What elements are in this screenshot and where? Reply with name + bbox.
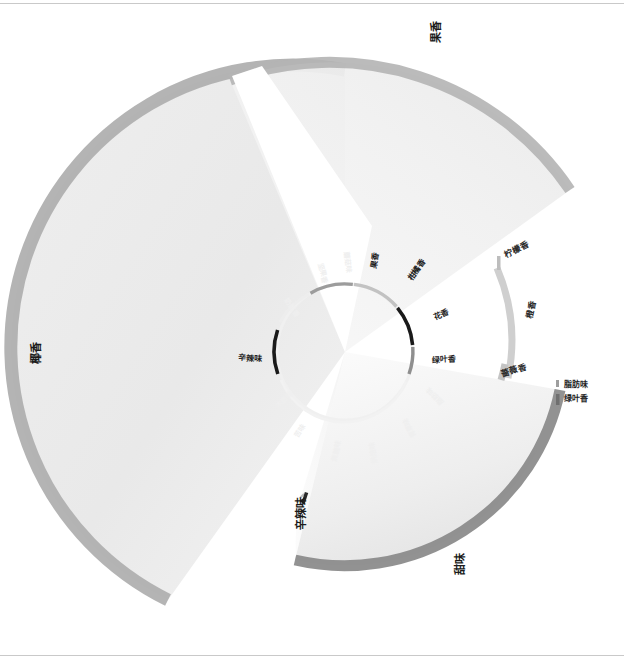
outer-segment-cheng-xiang — [497, 268, 512, 378]
frame-top-divider — [0, 3, 624, 4]
outer-segment-qiang-wei-xiang — [501, 364, 505, 380]
inner-arc-hua-xiang — [398, 308, 413, 345]
chart-canvas — [0, 0, 624, 667]
outer-segment-ning-meng-xiang — [497, 256, 501, 270]
legend-tick-lv-ye-xiang — [556, 394, 560, 405]
frame-bottom-divider — [0, 655, 624, 656]
outer-segment-tian-wei — [295, 352, 560, 566]
radial-flavor-chart: 果香 椰香 辛辣味 甜味 柠檬香 橙香 蔷薇香 脂肪味 绿叶香 果香 柑橘香 花… — [0, 0, 624, 667]
legend-tick-zhi-fang-wei — [556, 380, 559, 387]
